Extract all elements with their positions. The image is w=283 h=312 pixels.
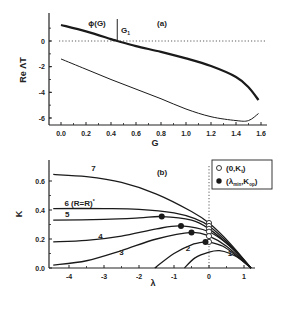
y-tick-label: 0.4 bbox=[35, 207, 45, 214]
legend-label-open: (0,Kt) bbox=[226, 164, 246, 174]
curve-label: 7 bbox=[91, 164, 96, 173]
y-tick-label: 0.6 bbox=[35, 178, 45, 185]
y-tick-label: 0.0 bbox=[35, 265, 45, 272]
x-tick-label: ‑3 bbox=[101, 273, 107, 280]
y-axis-label: K bbox=[14, 210, 24, 217]
x-axis-label: G bbox=[151, 138, 158, 148]
panel-a: 0-2-4-60.00.20.40.60.81.01.21.41.6GRe ΛT… bbox=[18, 13, 267, 148]
curve-label: 5 bbox=[65, 210, 70, 219]
x-tick-label: 0.8 bbox=[156, 130, 166, 137]
filled-point bbox=[203, 239, 209, 245]
x-tick-label: ‑2 bbox=[136, 273, 142, 280]
curve-label: 1 bbox=[228, 249, 233, 258]
x-tick-label: 1.4 bbox=[231, 130, 241, 137]
x-tick-label: 1 bbox=[242, 273, 246, 280]
y-tick-label: 0.2 bbox=[35, 236, 45, 243]
phi-annotation: ϕ(G) bbox=[88, 19, 106, 28]
panel-b-title: (b) bbox=[157, 168, 168, 177]
curve-label: 4 bbox=[98, 232, 103, 241]
y-tick-label: -4 bbox=[39, 89, 45, 96]
x-tick-label: 1.2 bbox=[206, 130, 216, 137]
y-axis-label: Re ΛT bbox=[18, 57, 28, 83]
curve-label: 2 bbox=[186, 244, 191, 253]
x-tick-label: 1.0 bbox=[181, 130, 191, 137]
x-axis-label: λ bbox=[150, 278, 155, 288]
legend-filled-marker bbox=[216, 178, 221, 183]
legend: (0,Kt)(λmin,Kop) bbox=[212, 160, 272, 189]
x-tick-label: 1.6 bbox=[256, 130, 266, 137]
curve-label: 3 bbox=[119, 248, 124, 257]
g1-label: G1 bbox=[121, 26, 130, 36]
legend-open-marker bbox=[217, 166, 222, 171]
x-tick-label: ‑4 bbox=[66, 273, 72, 280]
x-tick-label: 0.2 bbox=[81, 130, 91, 137]
filled-point bbox=[178, 223, 184, 229]
filled-point bbox=[159, 214, 165, 220]
curve-label: 6 (R=R)* bbox=[64, 198, 94, 208]
figure: 0-2-4-60.00.20.40.60.81.01.21.41.6GRe ΛT… bbox=[0, 0, 283, 312]
x-tick-label: 0.4 bbox=[106, 130, 116, 137]
filled-point bbox=[189, 229, 195, 235]
x-tick-label: 0 bbox=[207, 273, 211, 280]
x-tick-label: ‑1 bbox=[171, 273, 177, 280]
y-tick-label: -6 bbox=[39, 115, 45, 122]
lower-curve bbox=[61, 59, 259, 121]
y-tick-label: -2 bbox=[39, 63, 45, 70]
y-tick-label: 0 bbox=[41, 38, 45, 45]
panel-a-title: (a) bbox=[157, 19, 167, 28]
x-tick-label: 0.6 bbox=[131, 130, 141, 137]
panel-b: 0.00.20.40.6‑4‑3‑2‑101λK123456 (R=R)*7(b… bbox=[14, 160, 272, 288]
open-point bbox=[206, 234, 211, 239]
x-tick-label: 0.0 bbox=[56, 130, 66, 137]
phi-curve bbox=[61, 25, 259, 100]
